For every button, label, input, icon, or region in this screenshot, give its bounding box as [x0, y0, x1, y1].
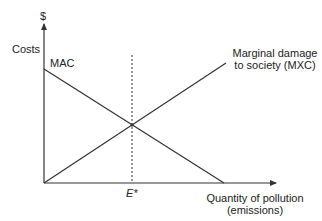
intersection-point	[130, 123, 133, 126]
mac-label: MAC	[50, 57, 74, 69]
y-axis-label: Costs	[12, 43, 40, 55]
x-axis-label-line1: Quantity of pollution	[196, 192, 314, 204]
equilibrium-label: E*	[126, 187, 138, 199]
mxc-label-line1: Marginal damage	[230, 47, 320, 59]
pollution-diagram	[0, 0, 322, 221]
mxc-label: Marginal damage to society (MXC)	[230, 47, 320, 71]
x-axis-label-line2: (emissions)	[196, 204, 314, 216]
y-axis-symbol: $	[40, 10, 46, 22]
x-axis-label: Quantity of pollution (emissions)	[196, 192, 314, 216]
mxc-label-line2: to society (MXC)	[230, 59, 320, 71]
mxc-line	[44, 63, 226, 183]
